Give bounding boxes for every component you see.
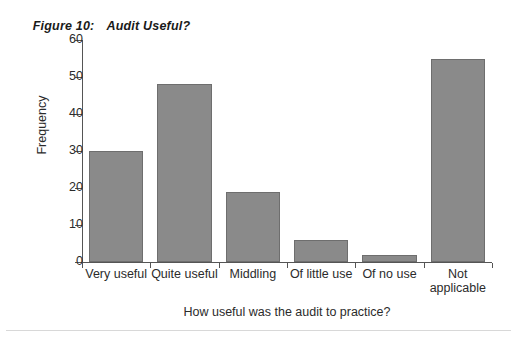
figure-page: Figure 10:Audit Useful? Frequency 605040…	[0, 0, 519, 340]
y-tick-label: 50	[55, 69, 83, 83]
y-axis-title: Frequency	[35, 75, 49, 175]
y-tick-label-wrap: 40	[40, 114, 83, 115]
y-tick-label: 40	[55, 106, 83, 120]
y-tick-label-wrap: 0	[40, 262, 83, 263]
x-category-label: Very useful	[82, 267, 150, 281]
y-tick-label: 0	[55, 254, 83, 268]
x-tick-mark	[492, 263, 493, 268]
y-tick-label-wrap: 20	[40, 188, 83, 189]
x-category-label: Of no use	[355, 267, 423, 281]
x-axis-title: How useful was the audit to practice?	[82, 305, 492, 319]
x-category-label: Of little use	[287, 267, 355, 281]
bar	[362, 255, 417, 262]
y-tick-label: 60	[55, 32, 83, 46]
y-tick-label-wrap: 60	[40, 40, 83, 41]
x-category-label: Middling	[219, 267, 287, 281]
y-tick-label-wrap: 30	[40, 151, 83, 152]
y-tick-label-wrap: 50	[40, 77, 83, 78]
y-tick-label-wrap: 10	[40, 225, 83, 226]
bar	[294, 240, 349, 262]
x-category-label: Quite useful	[150, 267, 218, 281]
bar	[89, 151, 144, 262]
bar	[226, 192, 281, 262]
x-category-label: Not applicable	[424, 267, 492, 295]
y-tick-label: 20	[55, 180, 83, 194]
y-tick-label: 30	[55, 143, 83, 157]
bar	[431, 59, 486, 263]
bar-chart: Frequency 6050403020100 Very usefulQuite…	[0, 0, 519, 340]
bar	[157, 84, 212, 262]
y-tick-label: 10	[55, 217, 83, 231]
